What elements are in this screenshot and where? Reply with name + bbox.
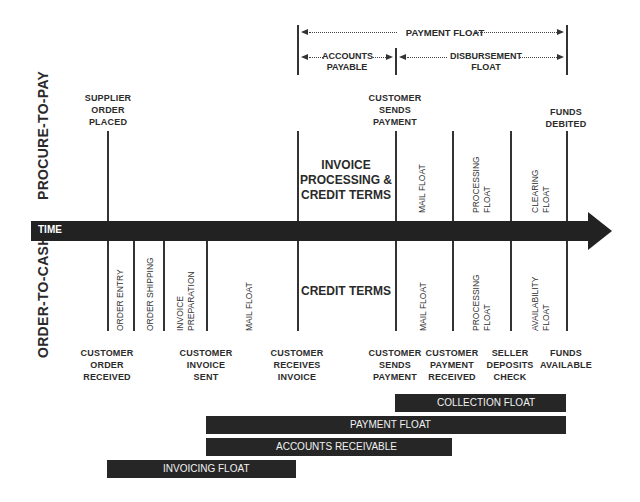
line-customer-receives-invoice (297, 241, 299, 331)
procure-processing-float: PROCESSING FLOAT (471, 156, 493, 213)
arrow-left-icon (399, 54, 406, 60)
span-divider-mid (395, 48, 397, 75)
invoice-processing-credit-terms: INVOICE PROCESSING & CREDIT TERMS (300, 158, 392, 203)
event-customer-sends-payment-bottom: CUSTOMER SENDS PAYMENT (369, 347, 422, 383)
dotted-line (373, 57, 386, 58)
event-funds-available: FUNDS AVAILABLE (540, 347, 592, 371)
line-order-shipping-end (163, 241, 165, 331)
procure-mail-float: MAIL FLOAT (417, 164, 428, 213)
event-customer-sends-payment-top: CUSTOMER SENDS PAYMENT (369, 92, 422, 128)
line-supplier-order (107, 131, 109, 221)
dotted-line (475, 32, 557, 33)
line-funds-available (566, 241, 568, 331)
arrow-right-icon (557, 54, 564, 60)
event-customer-receives-invoice: CUSTOMER RECEIVES INVOICE (271, 347, 324, 383)
cash-mail-float-1: MAIL FLOAT (244, 282, 255, 331)
event-seller-deposits-check: SELLER DEPOSITS CHECK (486, 347, 533, 383)
invoice-preparation: INVOICE PREPARATION (175, 271, 197, 331)
order-to-cash-label: ORDER-TO-CASH (35, 235, 51, 358)
event-customer-invoice-sent: CUSTOMER INVOICE SENT (180, 347, 233, 383)
event-customer-order-received: CUSTOMER ORDER RECEIVED (81, 347, 134, 383)
bar-accounts-receivable: ACCOUNTS RECEIVABLE (206, 438, 452, 456)
dotted-line (309, 57, 323, 58)
line-funds-debited (566, 131, 568, 221)
arrow-left-icon (301, 29, 308, 35)
arrow-right-icon (557, 29, 564, 35)
line-mail-processing (452, 131, 454, 221)
line-processing-clearing (510, 131, 512, 221)
procure-clearing-float: CLEARING FLOAT (530, 170, 552, 213)
cash-processing-float: PROCESSING FLOAT (471, 274, 493, 331)
event-customer-payment-received: CUSTOMER PAYMENT RECEIVED (426, 347, 479, 383)
accounts-payable-label: ACCOUNTS PAYABLE (322, 51, 372, 73)
line-customer-sends-payment-lower (395, 241, 397, 331)
bar-collection-float: COLLECTION FLOAT (395, 394, 566, 412)
line-seller-deposits (510, 241, 512, 331)
time-bar (31, 221, 589, 241)
order-shipping: ORDER SHIPPING (145, 257, 156, 331)
arrow-right-icon (386, 54, 393, 60)
cash-mail-float-2: MAIL FLOAT (418, 282, 429, 331)
order-entry: ORDER ENTRY (115, 269, 126, 331)
bar-invoicing-float: INVOICING FLOAT (107, 460, 296, 478)
arrow-left-icon (301, 54, 308, 60)
arrowhead-icon (588, 212, 614, 250)
dotted-line (309, 32, 397, 33)
line-customer-sends-payment (395, 131, 397, 221)
time-label: TIME (38, 224, 62, 235)
event-supplier-order-placed: SUPPLIER ORDER PLACED (85, 92, 132, 128)
credit-terms: CREDIT TERMS (301, 284, 391, 299)
procure-to-pay-label: PROCURE-TO-PAY (35, 71, 51, 200)
dotted-line (520, 57, 557, 58)
availability-float: AVAILABILITY FLOAT (530, 277, 552, 332)
line-order-entry-end (133, 241, 135, 331)
line-invoice-sent (206, 241, 208, 331)
span-divider-right (566, 25, 568, 75)
dotted-line (407, 57, 447, 58)
event-funds-debited: FUNDS DEBITED (546, 106, 587, 130)
span-divider-left (297, 25, 299, 75)
disbursement-float-label: DISBURSEMENT FLOAT (448, 51, 524, 73)
line-payment-received (452, 241, 454, 331)
line-customer-order (107, 241, 109, 331)
line-invoice-received (297, 131, 299, 221)
bar-payment-float: PAYMENT FLOAT (206, 416, 566, 434)
